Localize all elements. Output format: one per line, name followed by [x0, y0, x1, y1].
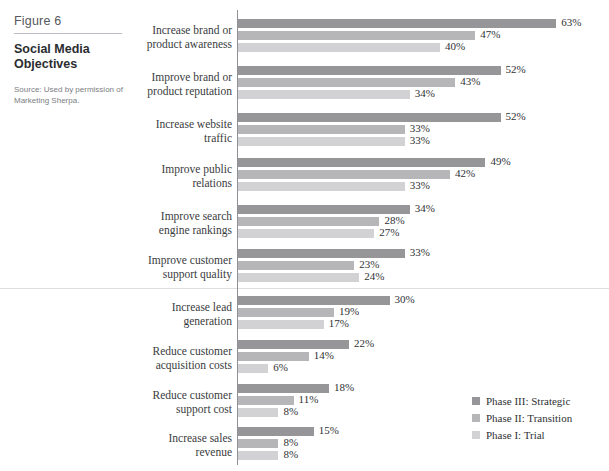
- bar-value-label: 19%: [339, 305, 359, 317]
- bar-1: [238, 396, 294, 405]
- figure-title: Social Media Objectives: [14, 42, 126, 72]
- figure-page: Figure 6 Social Media Objectives Source:…: [0, 0, 609, 471]
- legend-label: Phase I: Trial: [486, 429, 545, 441]
- bar-0: [238, 66, 501, 75]
- bar-value-label: 63%: [561, 16, 581, 28]
- bar-2: [238, 273, 359, 282]
- bar-1: [238, 352, 309, 361]
- bar-value-label: 33%: [410, 179, 430, 191]
- bar-value-label: 49%: [490, 155, 510, 167]
- bar-value-label: 52%: [506, 63, 526, 75]
- legend-swatch-icon: [472, 414, 480, 422]
- legend-swatch-icon: [472, 397, 480, 405]
- bar-value-label: 23%: [359, 258, 379, 270]
- legend-item[interactable]: Phase I: Trial: [472, 426, 572, 443]
- bar-value-label: 8%: [283, 448, 298, 460]
- bar-0: [238, 19, 556, 28]
- bar-value-label: 30%: [395, 293, 415, 305]
- bar-1: [238, 439, 278, 448]
- category-label: Increase sales revenue: [136, 432, 232, 459]
- bar-1: [238, 308, 334, 317]
- legend-label: Phase III: Strategic: [486, 395, 570, 407]
- bar-2: [238, 364, 268, 373]
- bar-value-label: 33%: [410, 134, 430, 146]
- legend-item[interactable]: Phase III: Strategic: [472, 392, 572, 409]
- bar-0: [238, 296, 390, 305]
- bar-0: [238, 249, 405, 258]
- bar-value-label: 14%: [314, 349, 334, 361]
- figure-caption-panel: Figure 6 Social Media Objectives Source:…: [14, 14, 126, 106]
- category-label: Increase brand or product awareness: [136, 24, 232, 51]
- bar-0: [238, 113, 501, 122]
- bar-1: [238, 78, 455, 87]
- bar-2: [238, 182, 405, 191]
- category-label: Improve public relations: [136, 163, 232, 190]
- legend-item[interactable]: Phase II: Transition: [472, 409, 572, 426]
- bar-2: [238, 137, 405, 146]
- category-label: Reduce customer support cost: [136, 389, 232, 416]
- bar-1: [238, 261, 354, 270]
- category-label: Improve search engine rankings: [136, 210, 232, 237]
- chart-legend: Phase III: StrategicPhase II: Transition…: [472, 392, 572, 443]
- bar-value-label: 27%: [379, 226, 399, 238]
- bar-value-label: 15%: [319, 424, 339, 436]
- bar-1: [238, 217, 379, 226]
- bar-value-label: 18%: [334, 381, 354, 393]
- bar-value-label: 22%: [354, 337, 374, 349]
- category-label: Increase website traffic: [136, 118, 232, 145]
- bar-2: [238, 320, 324, 329]
- legend-label: Phase II: Transition: [486, 412, 572, 424]
- bar-1: [238, 125, 405, 134]
- category-label: Improve brand or product reputation: [136, 71, 232, 98]
- bar-value-label: 40%: [445, 40, 465, 52]
- figure-number: Figure 6: [14, 14, 126, 33]
- bar-0: [238, 158, 485, 167]
- bar-2: [238, 451, 278, 460]
- bar-value-label: 34%: [415, 202, 435, 214]
- bar-1: [238, 31, 475, 40]
- page-divider-rule: [0, 288, 609, 289]
- figure-source-note: Source: Used by permission of Marketing …: [14, 84, 126, 106]
- bar-value-label: 33%: [410, 246, 430, 258]
- bar-value-label: 34%: [415, 87, 435, 99]
- bar-0: [238, 427, 314, 436]
- bar-value-label: 28%: [384, 214, 404, 226]
- category-label: Increase lead generation: [136, 301, 232, 328]
- bar-value-label: 42%: [455, 167, 475, 179]
- caption-divider: [14, 33, 122, 34]
- bar-2: [238, 43, 440, 52]
- bar-1: [238, 170, 450, 179]
- bar-value-label: 17%: [329, 317, 349, 329]
- bar-0: [238, 340, 349, 349]
- bar-value-label: 24%: [364, 270, 384, 282]
- bar-2: [238, 408, 278, 417]
- bar-0: [238, 205, 410, 214]
- bar-2: [238, 90, 410, 99]
- bar-value-label: 43%: [460, 75, 480, 87]
- bar-value-label: 6%: [273, 361, 288, 373]
- bar-value-label: 8%: [283, 436, 298, 448]
- category-label: Reduce customer acquisition costs: [136, 345, 232, 372]
- bar-0: [238, 384, 329, 393]
- legend-swatch-icon: [472, 431, 480, 439]
- category-label: Improve customer support quality: [136, 254, 232, 281]
- bar-value-label: 52%: [506, 110, 526, 122]
- bar-value-label: 11%: [299, 393, 319, 405]
- bar-2: [238, 229, 374, 238]
- bar-value-label: 33%: [410, 122, 430, 134]
- bar-value-label: 47%: [480, 28, 500, 40]
- bar-value-label: 8%: [283, 405, 298, 417]
